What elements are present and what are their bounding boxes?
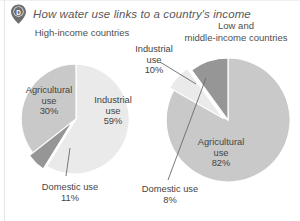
label-industrial-right: Industrial use 10% bbox=[126, 44, 182, 76]
label-industrial-left: Industrial use 59% bbox=[84, 95, 142, 127]
figure-panel: D How water use links to a country's inc… bbox=[0, 0, 300, 221]
label-domestic-left: Domestic use 11% bbox=[28, 182, 112, 203]
label-agricultural-right: Agricultural use 82% bbox=[186, 137, 256, 169]
label-domestic-right: Domestic use 8% bbox=[130, 184, 210, 205]
label-agricultural-left: Agricultural use 30% bbox=[18, 85, 80, 117]
